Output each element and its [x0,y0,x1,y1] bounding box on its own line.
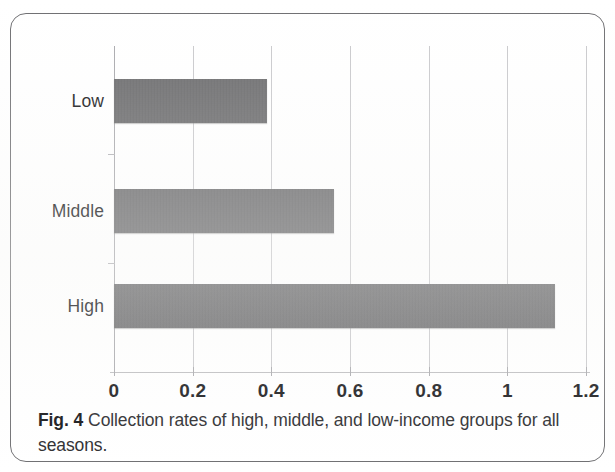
xtick-label-0-2: 0.2 [163,380,223,402]
figure-caption: Fig. 4Collection rates of high, middle, … [38,408,586,458]
xtick-mark-0-4 [271,367,272,376]
bar-chart: 0 0.2 0.4 0.6 0.8 1 1.2 Low Middle High [11,14,615,406]
xtick-label-0-6: 0.6 [320,380,380,402]
ytick-label-low: Low [0,91,104,112]
gridline-1-2 [586,46,587,372]
xtick-label-1-2: 1.2 [556,380,615,402]
ytick-2 [108,263,115,264]
ytick-1 [108,154,115,155]
xtick-mark-0-6 [350,367,351,376]
xtick-mark-0 [114,367,115,376]
figure-caption-text: Collection rates of high, middle, and lo… [38,410,559,455]
figure-frame: 0 0.2 0.4 0.6 0.8 1 1.2 Low Middle High … [10,13,605,462]
xtick-label-0-8: 0.8 [399,380,459,402]
figure-number: Fig. 4 [38,410,83,430]
bar-middle [114,189,334,233]
xtick-label-1: 1 [477,380,537,402]
plot-area [114,46,586,372]
xtick-mark-0-8 [429,367,430,376]
xtick-label-0-4: 0.4 [241,380,301,402]
bar-high [114,284,555,328]
xtick-mark-0-2 [193,367,194,376]
xtick-mark-1-2 [586,367,587,376]
xtick-mark-1 [507,367,508,376]
ytick-label-high: High [0,296,104,317]
bar-low [114,79,267,123]
ytick-label-middle: Middle [0,201,104,222]
y-axis-labels: Low Middle High [0,14,104,406]
